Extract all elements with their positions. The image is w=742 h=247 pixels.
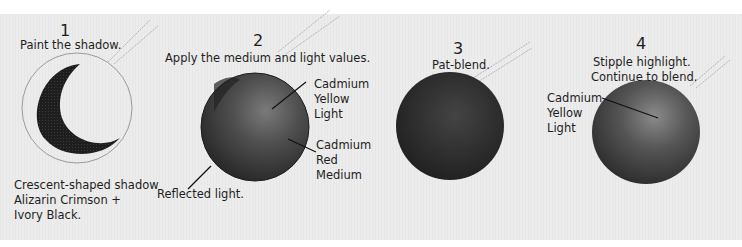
step-1-note-line-3: Ivory Black. (14, 208, 81, 223)
step-3-number: 3 (453, 40, 463, 58)
sphere-3 (396, 72, 504, 180)
step-4-highlight-label-line-3: Light (547, 121, 576, 136)
step-4-caption-line-1: Stipple highlight. (593, 55, 691, 70)
step-2-caption: Apply the medium and light values. (165, 51, 370, 66)
step-2-reflected-label: Reflected light. (157, 187, 244, 202)
step-2-midtone-label-line-3: Medium (316, 168, 362, 183)
step-1-note-line-1: Crescent-shaped shadow (14, 178, 159, 193)
step-1-note-line-2: Alizarin Crimson + (14, 193, 121, 208)
step-2-midtone-label-line-1: Cadmium (316, 138, 371, 153)
step-4-highlight-label-line-1: Cadmium (547, 91, 602, 106)
step-2-highlight-label-line-3: Light (314, 107, 343, 122)
step-3-caption: Pat-blend. (432, 58, 490, 73)
step-2-highlight-label-line-1: Cadmium (314, 77, 369, 92)
sphere-4 (592, 80, 700, 184)
step-2-highlight-label-line-2: Yellow (314, 92, 349, 107)
step-1-caption: Paint the shadow. (20, 38, 121, 53)
step-4-number: 4 (636, 35, 646, 53)
step-2-midtone-label-line-2: Red (316, 153, 338, 168)
step-2-number: 2 (253, 32, 263, 50)
step-4-highlight-label-line-2: Yellow (547, 106, 582, 121)
step-4-caption-line-2: Continue to blend. (591, 70, 697, 85)
sphere-1 (22, 53, 132, 163)
sphere-2 (188, 73, 316, 189)
